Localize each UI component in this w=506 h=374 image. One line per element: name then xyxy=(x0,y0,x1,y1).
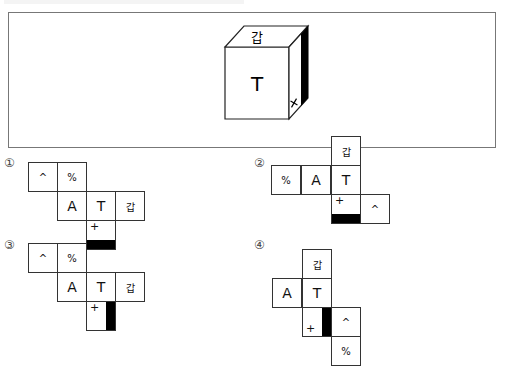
net-cell: A xyxy=(57,191,87,221)
option-4-label[interactable]: ④ xyxy=(254,238,265,252)
net-cell: 갑 xyxy=(331,136,361,166)
net-cell: ^ xyxy=(331,307,361,337)
option-1-label[interactable]: ① xyxy=(4,156,15,170)
net-cell: % xyxy=(57,243,87,273)
plus-mark: + xyxy=(90,221,99,232)
net-cell: T xyxy=(302,278,332,308)
net-cell: T xyxy=(331,165,361,195)
net-cell: T xyxy=(86,191,116,221)
faint-header-text xyxy=(4,0,244,4)
net-cell: 갑 xyxy=(302,249,332,279)
cube-figure: 갑 T xyxy=(9,13,497,149)
option-2-label[interactable]: ② xyxy=(254,156,265,170)
black-bar-right xyxy=(106,302,115,330)
net-cell: ^ xyxy=(28,243,58,273)
black-bar-right xyxy=(322,308,331,336)
black-bar-bottom xyxy=(87,240,115,249)
plus-mark: + xyxy=(335,195,344,206)
net-cell-marked: + xyxy=(86,301,116,331)
net-cell: A xyxy=(57,272,87,302)
net-cell: ^ xyxy=(360,194,390,224)
plus-mark: + xyxy=(306,323,315,334)
option-3-label[interactable]: ③ xyxy=(4,238,15,252)
cube-top-text: 갑 xyxy=(251,30,263,45)
net-cell: % xyxy=(331,336,361,366)
net-cell: % xyxy=(271,165,301,195)
question-frame: 갑 T xyxy=(8,12,496,148)
net-cell: A xyxy=(272,278,302,308)
cube-front-text: T xyxy=(250,72,264,96)
net-cell-marked: + xyxy=(86,220,116,250)
net-cell-marked: + xyxy=(302,307,332,337)
net-cell: % xyxy=(57,162,87,192)
net-cell: ^ xyxy=(28,162,58,192)
net-cell: T xyxy=(86,272,116,302)
net-cell: 갑 xyxy=(115,272,145,302)
net-cell: A xyxy=(301,165,331,195)
black-bar-bottom xyxy=(332,214,360,223)
net-cell-marked: + xyxy=(331,194,361,224)
net-cell: 갑 xyxy=(115,191,145,221)
plus-mark: + xyxy=(90,302,99,313)
header-strip xyxy=(0,0,506,10)
